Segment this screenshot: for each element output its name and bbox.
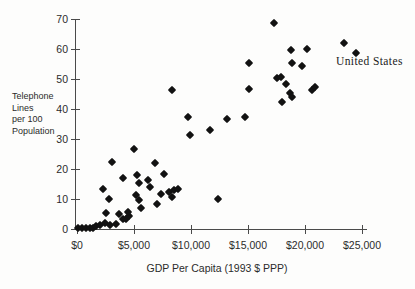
x-tick bbox=[191, 225, 192, 234]
data-point bbox=[98, 185, 106, 193]
data-point bbox=[167, 86, 175, 94]
data-point bbox=[206, 126, 214, 134]
y-tick-label: 30 bbox=[42, 133, 68, 145]
data-point bbox=[112, 220, 120, 228]
data-point bbox=[133, 171, 141, 179]
x-tick-label: $10,000 bbox=[161, 239, 221, 251]
data-point bbox=[302, 45, 310, 53]
x-tick-label: $15,000 bbox=[218, 239, 278, 251]
data-point bbox=[146, 183, 154, 191]
y-tick bbox=[71, 169, 80, 170]
y-tick bbox=[71, 79, 80, 80]
data-point bbox=[298, 62, 306, 70]
data-point bbox=[287, 45, 295, 53]
y-tick bbox=[71, 199, 80, 200]
data-point bbox=[137, 204, 145, 212]
data-point bbox=[223, 114, 231, 122]
y-tick-label: 20 bbox=[42, 163, 68, 175]
data-point bbox=[244, 59, 252, 67]
x-tick-label: $25,000 bbox=[332, 239, 392, 251]
data-point bbox=[241, 113, 249, 121]
y-tick bbox=[71, 139, 80, 140]
x-tick bbox=[134, 225, 135, 234]
data-point bbox=[340, 39, 348, 47]
x-axis-title: GDP Per Capita (1993 $ PPP) bbox=[117, 262, 317, 274]
data-point bbox=[130, 144, 138, 152]
data-point bbox=[278, 98, 286, 106]
x-axis-line bbox=[75, 229, 367, 230]
y-tick-label: 60 bbox=[42, 43, 68, 55]
y-tick bbox=[71, 109, 80, 110]
y-tick-label: 10 bbox=[42, 193, 68, 205]
data-point bbox=[135, 179, 143, 187]
data-point bbox=[101, 208, 109, 216]
data-point bbox=[288, 93, 296, 101]
data-point bbox=[245, 85, 253, 93]
y-tick-label: 50 bbox=[42, 73, 68, 85]
x-tick bbox=[362, 225, 363, 234]
y-tick-label: 40 bbox=[42, 103, 68, 115]
scatter-plot: Telephone Lines per 100 Population GDP P… bbox=[0, 0, 415, 289]
data-point bbox=[151, 159, 159, 167]
data-point bbox=[186, 130, 194, 138]
data-point bbox=[119, 174, 127, 182]
x-tick-label: $5,000 bbox=[104, 239, 164, 251]
y-tick bbox=[71, 19, 80, 20]
x-tick-label: $20,000 bbox=[275, 239, 335, 251]
data-point bbox=[105, 195, 113, 203]
data-point bbox=[159, 169, 167, 177]
data-point bbox=[214, 195, 222, 203]
data-point bbox=[108, 157, 116, 165]
data-point bbox=[270, 19, 278, 27]
y-tick-label: 70 bbox=[42, 13, 68, 25]
data-point bbox=[184, 112, 192, 120]
x-tick-label: $0 bbox=[47, 239, 107, 251]
y-tick-label: 0 bbox=[42, 223, 68, 235]
data-point bbox=[288, 59, 296, 67]
data-point bbox=[282, 79, 290, 87]
data-point bbox=[153, 200, 161, 208]
y-tick bbox=[71, 49, 80, 50]
united-states-annotation: United States bbox=[336, 55, 403, 67]
x-tick bbox=[248, 225, 249, 234]
x-tick bbox=[305, 225, 306, 234]
